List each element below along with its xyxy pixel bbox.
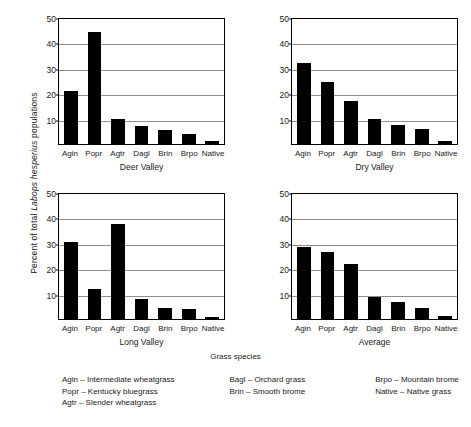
x-axis-tick-label: Agin (58, 324, 82, 333)
bar-slot (59, 19, 83, 144)
bar-brpo (182, 309, 196, 319)
bar-slot (433, 19, 457, 144)
x-axis-tick-label: Agtr (106, 324, 130, 333)
bar-brin (158, 308, 172, 319)
bar-dagl (135, 126, 149, 144)
y-axis-tick-label: 50 (47, 14, 56, 24)
legend-item-name: Orchard grass (254, 375, 305, 384)
x-axis-tick-label: Brin (153, 324, 177, 333)
bar-slot (410, 19, 434, 144)
bar-slot (316, 194, 340, 319)
bar-native (205, 317, 219, 319)
legend-item-dash: – (244, 387, 253, 396)
legend-item-agin: Agin – Intermediate wheatgrass (62, 374, 175, 386)
legend-item-agtr: Agtr – Slender wheatgrass (62, 397, 175, 409)
bar-series (292, 194, 457, 319)
legend-item-code: Popr (62, 387, 79, 396)
bar-slot (153, 194, 177, 319)
bar-dagl (135, 299, 149, 319)
bar-slot (177, 194, 201, 319)
bar-slot (433, 194, 457, 319)
x-axis-tick-label: Brin (386, 149, 410, 158)
bar-slot (59, 194, 83, 319)
bar-agtr (344, 101, 358, 144)
y-axis-tick-label: 30 (47, 65, 56, 75)
bar-brpo (415, 129, 429, 144)
legend-item-dash: – (78, 375, 87, 384)
legend-column: Bagl – Orchard grassBrin – Smooth brome (230, 374, 306, 409)
legend-item-name: Intermediate wheatgrass (87, 375, 175, 384)
x-axis-tick-label: Dagl (363, 324, 387, 333)
y-axis-tick-label: 10 (47, 116, 56, 126)
x-axis-title: Grass species (0, 352, 471, 361)
legend-item-brpo: Brpo – Mountain brome (375, 374, 459, 386)
y-axis-tick-label: 30 (47, 240, 56, 250)
legend-item-dash: – (79, 387, 88, 396)
legend-item-dash: – (392, 375, 401, 384)
x-axis-tick-label: Agin (291, 149, 315, 158)
x-axis-tick-label: Dagl (130, 149, 154, 158)
bar-brpo (182, 134, 196, 144)
x-axis-tick-label: Native (201, 324, 225, 333)
legend-item-name: Mountain brome (401, 375, 459, 384)
bar-slot (130, 194, 154, 319)
x-axis-tick-label: Agtr (339, 149, 363, 158)
y-axis-tick-label: 30 (280, 240, 289, 250)
legend-item-code: Agtr (62, 398, 77, 407)
panel-title: Dry Valley (291, 162, 458, 172)
plot-area: 1020304050 (291, 18, 458, 145)
x-axis-tick-label: Agtr (339, 324, 363, 333)
bar-slot (177, 19, 201, 144)
y-axis-tick-label: 50 (280, 14, 289, 24)
bar-slot (292, 194, 316, 319)
x-axis-tick-label: Dagl (363, 149, 387, 158)
panel-title: Average (291, 337, 458, 347)
x-axis-tick-label: Native (434, 149, 458, 158)
bar-agtr (111, 119, 125, 144)
x-axis-tick-label: Brpo (177, 149, 201, 158)
bar-popr (88, 32, 102, 144)
plot-area: 1020304050 (58, 193, 225, 320)
y-axis-title-part1: Percent of total (29, 211, 39, 274)
x-axis-tick-label: Agin (291, 324, 315, 333)
y-axis-tick-label: 10 (280, 291, 289, 301)
y-axis-tick-label: 50 (47, 189, 56, 199)
bar-slot (339, 194, 363, 319)
x-axis-tick-labels: AginPoprAgtrDaglBrinBrpoNative (291, 324, 458, 333)
figure-multi-panel-bar-chart: Percent of total Labops hesperius popula… (0, 0, 471, 427)
x-axis-tick-labels: AginPoprAgtrDaglBrinBrpoNative (58, 149, 225, 158)
bar-slot (153, 19, 177, 144)
y-axis-title-italic: Labops hesperius (29, 141, 39, 211)
bar-slot (130, 19, 154, 144)
x-axis-tick-label: Agtr (106, 149, 130, 158)
x-axis-tick-label: Native (434, 324, 458, 333)
legend-column: Agin – Intermediate wheatgrassPopr – Ken… (62, 374, 175, 409)
bar-popr (88, 289, 102, 319)
y-axis-tick-label: 40 (47, 214, 56, 224)
legend-item-code: Agin (62, 375, 78, 384)
x-axis-tick-label: Popr (315, 324, 339, 333)
bar-slot (292, 19, 316, 144)
bar-agin (297, 247, 311, 319)
x-axis-tick-labels: AginPoprAgtrDaglBrinBrpoNative (291, 149, 458, 158)
bar-native (438, 316, 452, 319)
bar-slot (106, 194, 130, 319)
bar-series (59, 19, 224, 144)
bar-agtr (111, 224, 125, 319)
x-axis-tick-label: Brpo (410, 149, 434, 158)
legend-item-bagl: Bagl – Orchard grass (230, 374, 306, 386)
x-axis-tick-label: Brpo (410, 324, 434, 333)
y-axis-tick-label: 20 (280, 265, 289, 275)
y-axis-tick-label: 20 (280, 90, 289, 100)
legend-item-name: Slender wheatgrass (86, 398, 157, 407)
bar-native (438, 141, 452, 144)
bar-slot (200, 194, 224, 319)
legend-column: Brpo – Mountain bromeNative – Native gra… (375, 374, 459, 409)
bar-dagl (368, 297, 382, 319)
bar-brin (391, 125, 405, 144)
plot-area: 1020304050 (291, 193, 458, 320)
y-axis-title: Percent of total Labops hesperius popula… (29, 53, 39, 313)
bar-native (205, 141, 219, 144)
legend-item-name: Smooth brome (253, 387, 305, 396)
legend-item-code: Bagl (230, 375, 246, 384)
